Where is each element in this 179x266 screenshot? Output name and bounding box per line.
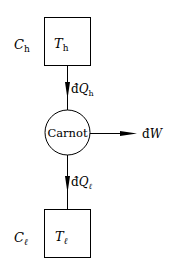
cold-temp-label: Tℓ — [55, 229, 68, 246]
hot-temp-label: Th — [54, 36, 69, 53]
hot-reservoir-box — [45, 18, 91, 66]
carnot-engine-diagram: Ch Th đQh Carnot đW đQℓ Cℓ Tℓ — [0, 0, 179, 266]
carnot-label: Carnot — [47, 126, 87, 140]
heat-in-label: đQh — [71, 82, 94, 98]
work-arrowhead — [120, 131, 137, 136]
heat-out-label: đQℓ — [71, 175, 93, 191]
heat-in-arrowhead — [65, 82, 70, 99]
hot-capacity-label: Ch — [14, 37, 30, 54]
cold-capacity-label: Cℓ — [14, 230, 28, 247]
cold-reservoir-box — [45, 210, 91, 258]
heat-out-arrowhead — [65, 176, 70, 193]
work-label: đW — [142, 127, 164, 141]
